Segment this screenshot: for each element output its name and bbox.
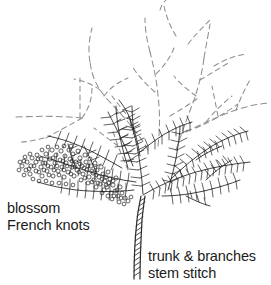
trunk [134,196,145,279]
label-trunk: trunk & branches stem stitch [148,248,256,281]
diagram-canvas: blossom French knots trunk & branches st… [0,0,271,285]
french-knot-blossom-cluster [17,144,133,206]
label-blossom-line2: French knots [7,217,90,234]
label-trunk-line2: stem stitch [148,265,256,282]
label-blossom-line1: blossom [7,200,90,217]
dashed-guide-branches [16,0,268,170]
shrub-illustration [0,0,271,285]
label-trunk-line1: trunk & branches [148,248,256,265]
label-blossom: blossom French knots [7,200,90,233]
